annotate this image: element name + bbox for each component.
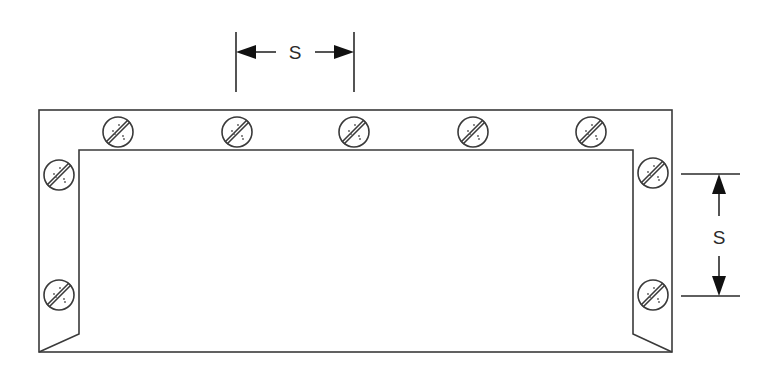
slotted-screw-head-icon <box>103 117 133 147</box>
vertical-spacing-label: S <box>713 227 726 248</box>
screws-left-column <box>44 160 74 310</box>
vertical-spacing-dimension <box>681 174 740 296</box>
frame-inner-edge <box>39 150 672 352</box>
screws-right-column <box>638 158 668 310</box>
slotted-screw-head-icon <box>576 117 606 147</box>
slotted-screw-head-icon <box>339 117 369 147</box>
arrowhead-up-icon <box>712 174 726 194</box>
slotted-screw-head-icon <box>44 280 74 310</box>
horizontal-spacing-label: S <box>289 42 302 63</box>
arrowhead-left-icon <box>236 45 256 59</box>
slotted-screw-head-icon <box>638 158 668 188</box>
fastener-spacing-diagram: S S <box>0 0 777 373</box>
arrowhead-right-icon <box>334 45 354 59</box>
arrowhead-down-icon <box>712 276 726 296</box>
slotted-screw-head-icon <box>44 160 74 190</box>
screws-top-row <box>103 117 606 147</box>
slotted-screw-head-icon <box>638 280 668 310</box>
slotted-screw-head-icon <box>458 117 488 147</box>
slotted-screw-head-icon <box>222 117 252 147</box>
